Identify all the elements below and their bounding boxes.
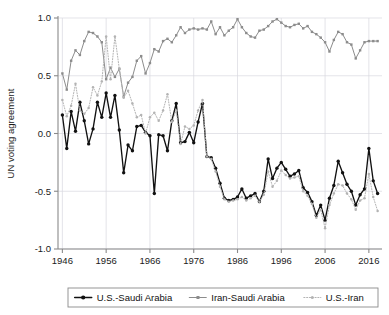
data-point — [166, 149, 169, 152]
data-point — [306, 195, 309, 198]
data-point — [69, 110, 72, 113]
data-point — [74, 83, 77, 86]
data-point — [131, 149, 134, 152]
data-point — [162, 109, 165, 112]
data-point — [319, 203, 322, 206]
data-point — [153, 111, 156, 114]
data-point — [350, 43, 352, 45]
data-point — [149, 116, 152, 119]
y-tick-label: 1.0 — [38, 12, 51, 23]
data-point — [83, 119, 86, 122]
data-point — [192, 141, 195, 144]
data-point — [372, 40, 374, 42]
data-point — [87, 142, 90, 145]
data-point — [197, 28, 199, 30]
data-point — [298, 23, 300, 25]
series-group — [61, 18, 380, 230]
data-point — [271, 20, 273, 22]
data-point — [271, 177, 274, 180]
data-point — [346, 41, 348, 43]
legend-marker-swatch — [196, 296, 199, 299]
data-point — [320, 36, 322, 38]
data-point — [148, 134, 151, 137]
data-point — [363, 197, 366, 200]
data-point — [280, 161, 283, 164]
y-axis-title: UN voting agreement — [5, 88, 16, 178]
data-point — [275, 166, 278, 169]
data-point — [341, 33, 343, 35]
legend-item-label: Iran-Saudi Arabia — [211, 292, 285, 303]
data-point — [83, 40, 85, 42]
data-point — [354, 208, 357, 211]
data-point — [298, 175, 301, 178]
data-point — [276, 180, 279, 183]
chart-figure: 1.00.50.0-0.5-1.019461956196619761986199… — [0, 0, 389, 315]
data-point — [96, 94, 99, 97]
data-point — [367, 147, 370, 150]
legend: U.S.-Saudi ArabiaIran-Saudi ArabiaU.S.-I… — [68, 288, 378, 307]
legend-item-label: U.S.-Saudi Arabia — [97, 292, 173, 303]
data-point — [276, 18, 278, 20]
data-point — [284, 168, 287, 171]
data-point — [350, 190, 353, 193]
data-point — [358, 193, 361, 196]
data-point — [166, 38, 168, 40]
data-point — [267, 170, 270, 173]
y-tick-label: -1.0 — [35, 243, 51, 254]
data-point — [196, 120, 199, 123]
data-point — [223, 198, 226, 201]
data-point — [293, 24, 295, 26]
x-tick-label: 2016 — [358, 255, 379, 266]
x-tick-label: 1996 — [271, 255, 292, 266]
data-point — [333, 192, 336, 195]
data-point — [311, 203, 314, 206]
data-point — [131, 102, 134, 105]
data-point — [206, 28, 208, 30]
data-point — [183, 140, 186, 143]
data-point — [184, 125, 187, 128]
data-point — [345, 183, 348, 186]
data-point — [201, 99, 204, 102]
series-u-s-saudi-arabia — [61, 91, 380, 221]
data-point — [74, 129, 77, 132]
data-point — [87, 31, 89, 33]
data-point — [135, 125, 138, 128]
data-point — [127, 81, 129, 83]
data-point — [175, 109, 178, 112]
data-point — [192, 124, 195, 127]
data-point — [315, 217, 318, 220]
data-point — [122, 96, 125, 99]
data-point — [214, 170, 217, 173]
data-point — [162, 40, 164, 42]
x-tick-label: 1986 — [227, 255, 248, 266]
data-point — [241, 26, 243, 28]
data-point — [333, 39, 335, 41]
series-line — [62, 93, 377, 220]
data-point — [96, 101, 99, 104]
data-point — [104, 91, 107, 94]
data-point — [228, 200, 231, 203]
data-point — [254, 195, 257, 198]
data-point — [346, 192, 349, 195]
data-point — [96, 35, 98, 37]
data-point — [61, 99, 64, 102]
data-point — [61, 72, 63, 74]
data-point — [328, 50, 330, 52]
data-point — [236, 18, 238, 20]
data-point — [105, 78, 107, 80]
data-point — [61, 113, 64, 116]
data-point — [258, 30, 260, 32]
data-point — [302, 27, 304, 29]
data-point — [109, 78, 112, 81]
data-point — [368, 173, 371, 176]
data-point — [118, 128, 121, 131]
data-point — [359, 49, 361, 51]
data-point — [206, 155, 209, 158]
data-point — [91, 127, 94, 130]
data-point — [149, 62, 151, 64]
data-point — [284, 25, 286, 27]
data-point — [297, 169, 300, 172]
data-point — [66, 115, 69, 118]
data-point — [153, 192, 156, 195]
data-point — [79, 54, 81, 56]
